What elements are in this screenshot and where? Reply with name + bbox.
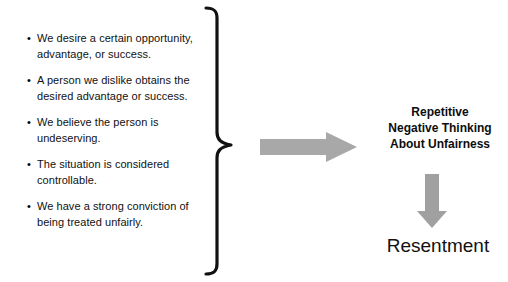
condition-text: We have a strong conviction of being tre…: [37, 198, 207, 230]
conditions-list: • We desire a certain opportunity, advan…: [27, 30, 207, 240]
list-item: • We believe the person is undeserving.: [27, 114, 207, 146]
diagram-canvas: • We desire a certain opportunity, advan…: [0, 0, 508, 282]
bullet-point-icon: •: [27, 198, 37, 214]
curly-brace-icon: [200, 6, 244, 276]
bullet-point-icon: •: [27, 72, 37, 88]
bullet-point-icon: •: [27, 30, 37, 46]
list-item: • A person we dislike obtains the desire…: [27, 72, 207, 104]
outcome-line-3: About Unfairness: [372, 136, 508, 152]
condition-text: We believe the person is undeserving.: [37, 114, 207, 146]
list-item: • We have a strong conviction of being t…: [27, 198, 207, 230]
list-item: • We desire a certain opportunity, advan…: [27, 30, 207, 62]
arrow-down-icon: [414, 172, 450, 230]
bullet-point-icon: •: [27, 114, 37, 130]
result-label: Resentment: [368, 234, 508, 258]
outcome-line-2: Negative Thinking: [372, 120, 508, 136]
outcome-line-1: Repetitive: [372, 104, 508, 120]
condition-text: The situation is considered controllable…: [37, 156, 207, 188]
condition-text: We desire a certain opportunity, advanta…: [37, 30, 207, 62]
arrow-right-icon: [258, 130, 360, 164]
bullet-point-icon: •: [27, 156, 37, 172]
outcome-label: Repetitive Negative Thinking About Unfai…: [372, 104, 508, 152]
condition-text: A person we dislike obtains the desired …: [37, 72, 207, 104]
list-item: • The situation is considered controllab…: [27, 156, 207, 188]
